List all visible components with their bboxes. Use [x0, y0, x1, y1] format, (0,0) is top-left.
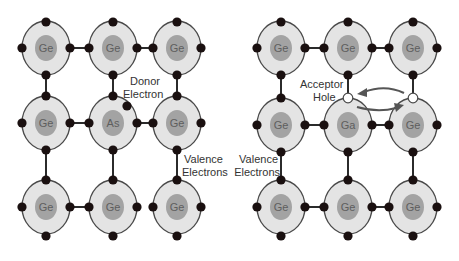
valence-electrons-label-line2: Electrons: [234, 166, 280, 178]
atom-ge: Ge: [148, 91, 205, 154]
valence-electrons-label-line1: Valence: [239, 153, 278, 165]
svg-text:Ge: Ge: [106, 201, 121, 213]
svg-text:As: As: [107, 117, 120, 129]
valence-electrons-label-line2: Electrons: [182, 166, 228, 178]
svg-text:Ge: Ge: [39, 201, 54, 213]
svg-text:Ge: Ge: [39, 42, 54, 54]
valence-electrons-label-line1: Valence: [184, 153, 223, 165]
atom-ge: Ge: [148, 17, 205, 79]
svg-text:Ge: Ge: [406, 42, 421, 54]
svg-text:Ge: Ge: [170, 42, 185, 54]
atom-ge: Ge: [84, 17, 141, 79]
svg-text:Ge: Ge: [170, 201, 185, 213]
arrowhead-left-icon: [357, 88, 367, 97]
n-type-lattice-panel: Ge Ge Ge Ge As: [17, 17, 228, 240]
donor-electron-label-line1: Donor: [130, 75, 160, 87]
hole: [408, 93, 418, 103]
donor-electron: [122, 101, 131, 110]
svg-text:Ge: Ge: [274, 201, 289, 213]
arrow-left-icon: [364, 88, 404, 93]
donor-electron-label-line2: Electron: [123, 88, 163, 100]
atom-ge: Ge: [319, 175, 376, 240]
atom-ge: Ge: [17, 175, 74, 240]
svg-text:Ga: Ga: [341, 119, 357, 131]
atom-as-donor: As: [84, 91, 141, 154]
atom-ge: Ge: [384, 175, 441, 240]
atom-ge: Ge: [148, 175, 205, 240]
svg-text:Ge: Ge: [274, 119, 289, 131]
svg-text:Ge: Ge: [274, 42, 289, 54]
svg-text:Ge: Ge: [170, 117, 185, 129]
atom-ge: Ge: [252, 17, 309, 79]
acceptor-hole-label-line2: Hole: [313, 91, 336, 103]
atom-ge: Ge: [84, 175, 141, 240]
acceptor-hole: [343, 93, 353, 103]
svg-text:Ge: Ge: [39, 117, 54, 129]
atom-ge: Ge: [252, 175, 309, 240]
p-type-lattice-panel: Ge Ge Ge Ge Ga: [234, 17, 441, 240]
atom-ge: Ge: [17, 17, 74, 79]
semiconductor-doping-diagram: Ge Ge Ge Ge As: [0, 0, 459, 261]
svg-text:Ge: Ge: [106, 42, 121, 54]
hole-movement-arrows: [357, 88, 404, 112]
atom-ge: Ge: [252, 93, 309, 156]
atom-ge: Ge: [384, 17, 441, 79]
svg-text:Ge: Ge: [406, 201, 421, 213]
atom-ge: Ge: [319, 17, 376, 79]
atom-ge: Ge: [384, 93, 441, 156]
acceptor-hole-label-line1: Acceptor: [300, 78, 344, 90]
svg-text:Ge: Ge: [341, 201, 356, 213]
atom-ge: Ge: [17, 91, 74, 154]
svg-text:Ge: Ge: [341, 42, 356, 54]
svg-text:Ge: Ge: [406, 119, 421, 131]
